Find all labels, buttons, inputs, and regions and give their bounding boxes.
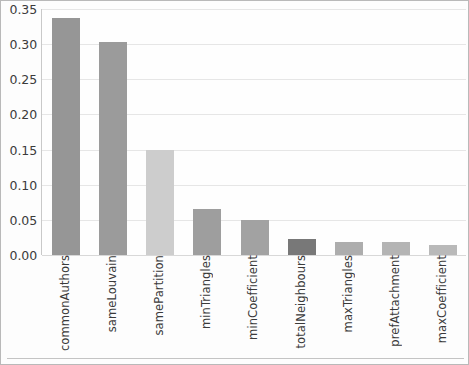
y-axis-tick-label: 0.20	[10, 107, 37, 122]
bar	[193, 209, 221, 255]
bar	[52, 18, 80, 255]
x-axis-tick-label: totalNeighbours	[277, 255, 324, 359]
x-axis-tick-label: commonAuthors	[41, 255, 88, 359]
axis-bottom-rule	[7, 358, 464, 359]
y-axis-tick-label: 0.00	[10, 248, 37, 263]
bar	[241, 220, 269, 255]
x-axis-tick-text: minCoefficient	[246, 255, 260, 340]
y-axis-tick-label: 0.25	[10, 72, 37, 87]
x-axis-tick-label: maxCoefficient	[419, 255, 466, 359]
x-axis-tick-text: maxCoefficient	[435, 255, 449, 343]
x-axis-tick-label: minTriangles	[183, 255, 230, 359]
bar	[288, 239, 316, 255]
x-axis-tick-text: totalNeighbours	[294, 255, 308, 349]
x-axis-tick-text: prefAttachment	[388, 255, 402, 347]
x-axis-tick-label: samePartition	[135, 255, 182, 359]
bars-group	[42, 9, 466, 255]
y-axis-tick-label: 0.35	[10, 2, 37, 17]
x-axis-tick-label: maxTriangles	[324, 255, 371, 359]
plot-area	[41, 9, 466, 255]
y-axis-tick-label: 0.30	[10, 37, 37, 52]
y-axis-tick-label: 0.10	[10, 177, 37, 192]
x-axis-tick-label: prefAttachment	[372, 255, 419, 359]
x-axis-tick-text: minTriangles	[199, 255, 213, 329]
bar	[146, 150, 174, 255]
x-axis-tick-text: commonAuthors	[58, 255, 72, 351]
bar-chart-figure: 0.350.300.250.200.150.100.050.00 commonA…	[0, 0, 469, 365]
bar	[99, 42, 127, 255]
bar	[335, 242, 363, 255]
x-axis-tick-label: minCoefficient	[230, 255, 277, 359]
x-axis-tick-text: samePartition	[152, 255, 166, 336]
x-axis-tick-text: maxTriangles	[341, 255, 355, 332]
x-axis-tick-label: sameLouvain	[88, 255, 135, 359]
y-axis-tick-label: 0.15	[10, 142, 37, 157]
x-axis-tick-text: sameLouvain	[105, 255, 119, 332]
y-axis: 0.350.300.250.200.150.100.050.00	[1, 1, 41, 365]
bar	[429, 245, 457, 255]
y-axis-tick-label: 0.05	[10, 212, 37, 227]
bar	[382, 242, 410, 255]
x-axis: commonAuthorssameLouvainsamePartitionmin…	[41, 255, 466, 359]
